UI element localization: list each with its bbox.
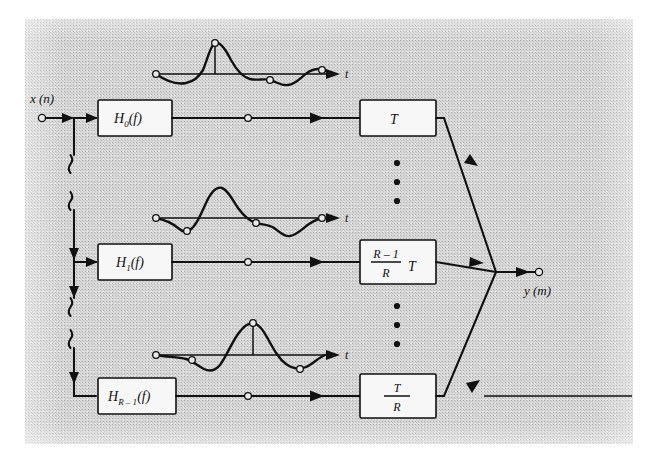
impulse-response-plot-channel-0-xlabel: t <box>345 67 349 81</box>
tap-point-channel-1 <box>245 259 252 266</box>
input-distribution-bus <box>69 118 96 396</box>
svg-text:R: R <box>392 400 401 414</box>
filter-bank-diagram: x (n) H0(f) <box>0 0 656 462</box>
impulse-response-plot-channel-R-1-xlabel: t <box>345 348 349 362</box>
output-label: y (m) <box>522 283 551 298</box>
impulse-response-plot-channel-R-1: t <box>152 320 349 373</box>
decimator-block-channel-0-label: T <box>390 112 399 127</box>
tap-point-channel-0 <box>245 115 252 122</box>
channel-R-1-row: HR – 1(f) T R <box>98 374 436 418</box>
impulse-response-plot-channel-1-xlabel: t <box>345 211 349 225</box>
lower-vertical-ellipsis <box>394 303 400 347</box>
svg-text:T: T <box>408 259 417 274</box>
figure-root: x (n) H0(f) <box>0 0 656 462</box>
impulse-response-plot-channel-0: t <box>152 40 349 85</box>
input-label: x (n) <box>29 91 54 106</box>
output-combiner <box>436 118 543 396</box>
output-terminal <box>535 268 542 275</box>
input-terminal <box>38 113 74 123</box>
decimator-block-channel-0[interactable] <box>360 100 436 136</box>
channel-0-row: H0(f) T <box>74 100 436 136</box>
svg-text:R – 1: R – 1 <box>372 247 398 261</box>
svg-text:R: R <box>381 266 390 280</box>
tap-point-channel-R-1 <box>245 393 252 400</box>
upper-vertical-ellipsis <box>394 160 400 204</box>
channel-1-row: H1(f) R – 1 R T <box>74 240 436 284</box>
impulse-response-plot-channel-1: t <box>152 188 349 237</box>
